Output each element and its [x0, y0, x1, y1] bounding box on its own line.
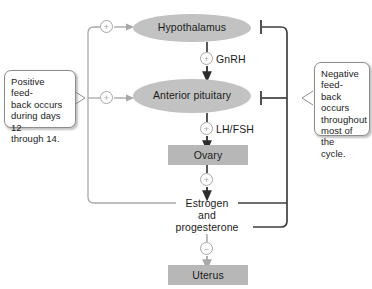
positive-feedback-path	[88, 27, 176, 203]
sign-plus-ovary-estrogen: +	[200, 173, 213, 186]
label-gnrh: GnRH	[216, 53, 246, 65]
node-hypothalamus[interactable]: Hypothalamus	[133, 14, 251, 42]
sign-plus-lhfsh: +	[200, 122, 213, 135]
label-progesterone: progesterone	[147, 221, 267, 233]
minus-icon: −	[204, 244, 209, 253]
sign-plus-gnrh: +	[200, 52, 213, 65]
label-and: and	[147, 209, 267, 221]
node-ovary[interactable]: Ovary	[168, 145, 248, 165]
node-anterior-pituitary[interactable]: Anterior pituitary	[133, 79, 251, 113]
plus-icon: +	[104, 93, 109, 102]
plus-icon: +	[204, 54, 209, 63]
negative-callout-tail	[302, 91, 313, 105]
label-estrogen: Estrogen	[147, 197, 267, 209]
plus-icon: +	[104, 22, 109, 31]
sign-plus-pituitary-feedback: +	[100, 91, 113, 104]
callout-positive-feedback[interactable]: Positive feed- back occurs during days 1…	[4, 70, 76, 128]
callout-negative-feedback[interactable]: Negative feed- back occurs throughout mo…	[314, 62, 370, 136]
sign-minus-uterus: −	[200, 242, 213, 255]
label-lhfsh: LH/FSH	[216, 123, 254, 135]
diagram-canvas: Hypothalamus Anterior pituitary Ovary Ut…	[0, 0, 372, 289]
plus-icon: +	[204, 124, 209, 133]
node-uterus[interactable]: Uterus	[168, 265, 248, 285]
sign-plus-hypothalamus-feedback: +	[100, 20, 113, 33]
plus-icon: +	[204, 175, 209, 184]
